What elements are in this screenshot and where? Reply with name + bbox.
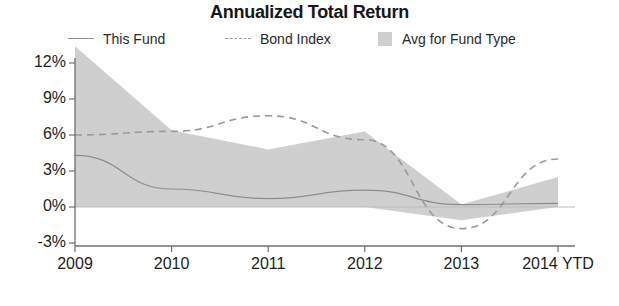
y-axis-tick-label: 0% xyxy=(43,197,66,215)
y-axis-tick-label: 3% xyxy=(43,161,66,179)
y-axis-tick-label: -3% xyxy=(38,233,66,251)
y-axis-tick-label: 9% xyxy=(43,89,66,107)
y-axis-tick-label: 6% xyxy=(43,125,66,143)
x-axis-tick-label: 2009 xyxy=(20,255,130,273)
annualized-total-return-chart: Annualized Total Return This Fund Bond I… xyxy=(0,0,619,306)
x-axis-tick-label: 2013 xyxy=(406,255,516,273)
y-axis-tick-label: 12% xyxy=(34,53,66,71)
x-axis-tick-label: 2014 YTD xyxy=(503,255,613,273)
x-axis-tick-label: 2010 xyxy=(117,255,227,273)
x-axis-tick-label: 2012 xyxy=(310,255,420,273)
x-axis-tick-label: 2011 xyxy=(213,255,323,273)
